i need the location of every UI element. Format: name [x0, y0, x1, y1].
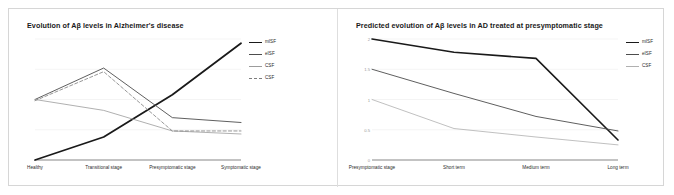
legend-item-label: mISF — [642, 40, 653, 45]
data-series-line — [372, 69, 618, 131]
legend-item-label: CSF — [265, 76, 274, 81]
data-series-line — [35, 68, 241, 122]
y-axis-tick-label: 0 — [360, 158, 370, 163]
x-axis-tick-label: Medium term — [522, 165, 549, 170]
legend-item[interactable]: CSF — [626, 61, 653, 71]
legend-swatch-icon — [626, 54, 639, 55]
x-axis-tick-label: Transitional stage — [85, 165, 122, 170]
y-axis-tick-label: 1.5 — [360, 67, 370, 72]
plot-area-right — [338, 9, 666, 187]
legend-item[interactable]: CSF — [249, 73, 276, 83]
legend-item[interactable]: mISF — [626, 37, 653, 47]
x-axis-tick-label: Presymptomatic stage — [149, 165, 195, 170]
legend-item[interactable]: eISF — [249, 49, 276, 59]
data-series-line — [372, 100, 618, 145]
chart-legend-left: mISFeISFCSFCSF — [249, 37, 276, 85]
x-axis-tick-label: Symptomatic stage — [221, 165, 261, 170]
chart-svg — [338, 9, 666, 187]
legend-item-label: eISF — [265, 52, 275, 57]
legend-item[interactable]: mISF — [249, 37, 276, 47]
legend-item-label: eISF — [642, 52, 652, 57]
y-axis-tick-label: 0.5 — [360, 127, 370, 132]
legend-swatch-icon — [626, 42, 639, 43]
y-axis-tick-label: 2 — [360, 37, 370, 42]
chart-panel-right: Predicted evolution of Aβ levels in AD t… — [337, 9, 665, 187]
legend-item[interactable]: eISF — [626, 49, 653, 59]
x-axis-tick-label: Healthy — [27, 165, 43, 170]
data-series-line — [35, 72, 241, 131]
figure-frame: Evolution of Aβ levels in Alzheimer's di… — [8, 8, 664, 186]
chart-legend-right: mISFeISFCSF — [626, 37, 653, 73]
x-axis-tick-label: Long term — [607, 165, 628, 170]
legend-swatch-icon — [249, 54, 262, 55]
legend-item-label: CSF — [265, 64, 274, 69]
legend-item-label: CSF — [642, 64, 651, 69]
legend-swatch-icon — [249, 42, 262, 43]
legend-swatch-icon — [249, 78, 262, 79]
x-axis-tick-label: Short term — [443, 165, 465, 170]
legend-swatch-icon — [249, 66, 262, 67]
plot-area-left — [9, 9, 337, 187]
legend-item-label: mISF — [265, 40, 276, 45]
legend-item[interactable]: CSF — [249, 61, 276, 71]
y-axis-tick-label: 1 — [360, 97, 370, 102]
x-axis-tick-label: Presymptomatic stage — [349, 165, 395, 170]
legend-swatch-icon — [626, 66, 639, 67]
chart-svg — [9, 9, 337, 187]
chart-panel-left: Evolution of Aβ levels in Alzheimer's di… — [9, 9, 337, 187]
